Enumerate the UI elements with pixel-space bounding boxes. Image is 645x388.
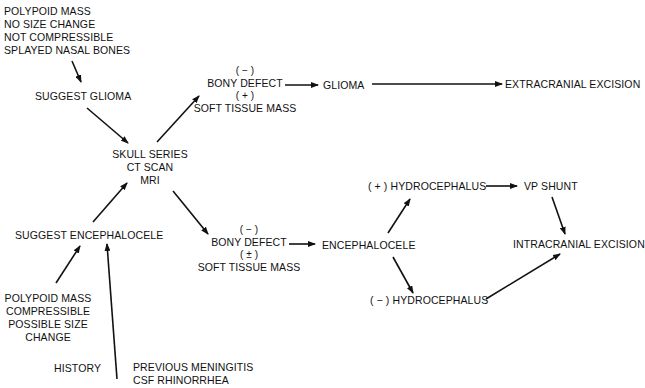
vp-shunt-node: VP SHUNT xyxy=(524,180,578,193)
sign-label: ( − ) xyxy=(190,65,300,77)
sign-label: ( + ) xyxy=(190,90,300,102)
encephalocele-node: ENCEPHALOCELE xyxy=(322,239,416,252)
finding-line: CHANGE xyxy=(2,331,94,344)
finding-line: COMPRESSIBLE xyxy=(2,305,94,318)
glioma-findings: POLYPOID MASS NO SIZE CHANGE NOT COMPRES… xyxy=(4,5,130,57)
edge-suggest-glioma-to-imaging xyxy=(87,108,128,143)
finding-line: POLYPOID MASS xyxy=(4,5,130,18)
bony-defect-label: BONY DEFECT xyxy=(190,77,300,90)
edge-findings-to-suggest-enceph xyxy=(56,246,80,283)
imaging-line: SKULL SERIES xyxy=(112,148,188,161)
finding-line: POSSIBLE SIZE xyxy=(2,318,94,331)
edge-neg-hydro-to-intracranial xyxy=(486,254,560,299)
bony-defect-label: BONY DEFECT xyxy=(194,236,304,249)
edge-vp-shunt-to-intracranial xyxy=(552,197,565,234)
edge-history-to-suggest-enceph xyxy=(107,244,117,379)
history-label: HISTORY xyxy=(54,362,101,375)
edge-findings-to-suggest-glioma xyxy=(72,61,81,82)
edge-enceph-to-neg-hydro xyxy=(393,257,413,293)
encephalocele-imaging-node: ( − ) BONY DEFECT ( ± ) SOFT TISSUE MASS xyxy=(194,224,304,274)
suggest-encephalocele-node: SUGGEST ENCEPHALOCELE xyxy=(15,229,163,242)
negative-hydrocephalus-node: ( − ) HYDROCEPHALUS xyxy=(370,294,488,307)
soft-tissue-label: SOFT TISSUE MASS xyxy=(190,102,300,115)
history-line: CSF RHINORRHEA xyxy=(133,374,253,387)
encephalocele-findings: POLYPOID MASS COMPRESSIBLE POSSIBLE SIZE… xyxy=(2,292,94,344)
positive-hydrocephalus-node: ( + ) HYDROCEPHALUS xyxy=(368,180,486,193)
imaging-node: SKULL SERIES CT SCAN MRI xyxy=(112,148,188,187)
imaging-line: MRI xyxy=(112,174,188,187)
history-line: PREVIOUS MENINGITIS xyxy=(133,361,253,374)
sign-label: ( ± ) xyxy=(194,249,304,261)
suggest-glioma-node: SUGGEST GLIOMA xyxy=(35,90,131,103)
finding-line: NO SIZE CHANGE xyxy=(4,18,130,31)
extracranial-excision-node: EXTRACRANIAL EXCISION xyxy=(505,78,640,91)
history-items: PREVIOUS MENINGITIS CSF RHINORRHEA xyxy=(133,361,253,387)
edge-enceph-to-pos-hydro xyxy=(388,199,410,233)
imaging-line: CT SCAN xyxy=(112,161,188,174)
finding-line: SPLAYED NASAL BONES xyxy=(4,44,130,57)
edge-suggest-enceph-to-imaging xyxy=(93,183,127,222)
sign-label: ( − ) xyxy=(194,224,304,236)
finding-line: NOT COMPRESSIBLE xyxy=(4,31,130,44)
glioma-node: GLIOMA xyxy=(323,79,364,92)
glioma-imaging-node: ( − ) BONY DEFECT ( + ) SOFT TISSUE MASS xyxy=(190,65,300,115)
soft-tissue-label: SOFT TISSUE MASS xyxy=(194,261,304,274)
intracranial-excision-node: INTRACRANIAL EXCISION xyxy=(513,238,645,251)
finding-line: POLYPOID MASS xyxy=(2,292,94,305)
